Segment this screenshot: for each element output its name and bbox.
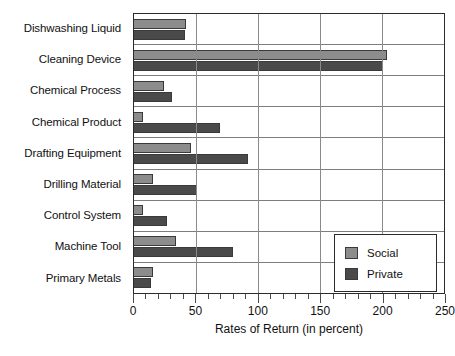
tick-minor <box>208 294 209 299</box>
tick-minor <box>408 294 409 299</box>
bar-private <box>134 185 197 195</box>
tick-minor <box>433 294 434 299</box>
gridline-vertical <box>320 14 321 293</box>
tick-minor <box>395 294 396 299</box>
bar-social <box>134 50 387 60</box>
tick-minor <box>345 294 346 299</box>
bar-social <box>134 112 143 122</box>
bar-private <box>134 92 172 102</box>
category-label: Drilling Material <box>0 169 127 200</box>
bar-social <box>134 174 153 184</box>
bar-private <box>134 123 220 133</box>
bar-gap <box>134 91 444 92</box>
x-axis-title: Rates of Return (in percent) <box>133 322 445 336</box>
bar-private <box>134 216 167 226</box>
tick-major <box>383 294 384 303</box>
tick-minor <box>270 294 271 299</box>
bar-social <box>134 143 191 153</box>
category-label: Control System <box>0 200 127 231</box>
category-axis-labels: Dishwashing Liquid Cleaning Device Chemi… <box>0 13 127 294</box>
tick-minor <box>233 294 234 299</box>
bar-group <box>134 14 444 45</box>
tick-minor <box>145 294 146 299</box>
x-tick-label: 100 <box>248 304 268 318</box>
bar-social <box>134 19 186 29</box>
tick-minor <box>333 294 334 299</box>
category-label: Machine Tool <box>0 232 127 263</box>
category-label: Chemical Product <box>0 107 127 138</box>
x-tick-label: 150 <box>310 304 330 318</box>
bar-social <box>134 236 176 246</box>
tick-major <box>195 294 196 303</box>
legend: Social Private <box>334 234 437 292</box>
bar-group <box>134 170 444 201</box>
tick-minor <box>295 294 296 299</box>
bar-group <box>134 107 444 138</box>
bar-private <box>134 154 248 164</box>
x-tick-label: 250 <box>435 304 455 318</box>
tick-major <box>445 294 446 303</box>
tick-minor <box>158 294 159 299</box>
tick-minor <box>170 294 171 299</box>
bar-social <box>134 81 164 91</box>
category-label: Dishwashing Liquid <box>0 13 127 44</box>
bar-private <box>134 247 233 257</box>
tick-minor <box>183 294 184 299</box>
bar-group <box>134 76 444 107</box>
tick-minor <box>370 294 371 299</box>
x-tick-label: 50 <box>189 304 202 318</box>
tick-minor <box>283 294 284 299</box>
category-label: Chemical Process <box>0 75 127 106</box>
x-axis-tick-labels: 050100150200250 <box>133 304 445 320</box>
category-label: Primary Metals <box>0 263 127 294</box>
tick-minor <box>420 294 421 299</box>
legend-swatch-social-icon <box>345 247 358 259</box>
legend-label-private: Private <box>367 268 403 280</box>
tick-minor <box>220 294 221 299</box>
bar-group <box>134 201 444 232</box>
legend-swatch-private-icon <box>345 268 358 280</box>
bar-group <box>134 138 444 169</box>
bar-group <box>134 45 444 76</box>
gridline-vertical <box>196 14 197 293</box>
bar-private <box>134 278 151 288</box>
tick-major <box>133 294 134 303</box>
bar-social <box>134 205 143 215</box>
tick-major <box>258 294 259 303</box>
legend-item-private: Private <box>345 268 436 280</box>
category-label: Drafting Equipment <box>0 138 127 169</box>
bar-social <box>134 267 153 277</box>
tick-minor <box>358 294 359 299</box>
tick-minor <box>245 294 246 299</box>
legend-item-social: Social <box>345 247 436 259</box>
bar-private <box>134 30 185 40</box>
x-tick-label: 200 <box>373 304 393 318</box>
gridline-vertical <box>258 14 259 293</box>
legend-label-social: Social <box>367 247 398 259</box>
x-tick-label: 0 <box>130 304 137 318</box>
tick-major <box>320 294 321 303</box>
category-label: Cleaning Device <box>0 44 127 75</box>
bar-gap <box>134 215 444 216</box>
tick-minor <box>308 294 309 299</box>
